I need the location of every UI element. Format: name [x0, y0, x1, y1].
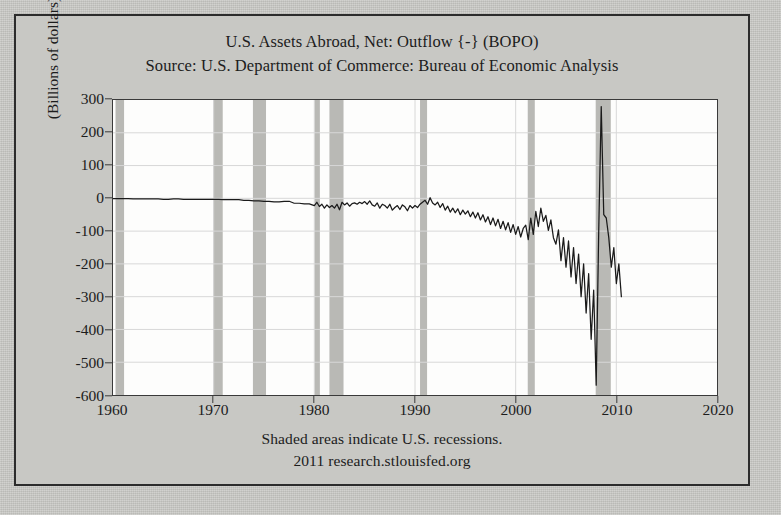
recession-band — [213, 100, 223, 395]
chart-subtitle: Source: U.S. Department of Commerce: Bur… — [16, 56, 748, 76]
recession-band — [116, 100, 125, 395]
y-tick-mark — [105, 164, 112, 165]
x-tick-label: 2010 — [602, 401, 633, 419]
x-tick-label: 1970 — [198, 401, 229, 419]
chart-title: U.S. Assets Abroad, Net: Outflow {-} (BO… — [16, 32, 748, 52]
recession-band — [420, 100, 427, 395]
y-tick-mark — [105, 131, 112, 132]
y-tick-mark — [105, 230, 112, 231]
y-tick-label: -400 — [76, 321, 104, 339]
x-tick-label: 2000 — [501, 401, 532, 419]
page-background: U.S. Assets Abroad, Net: Outflow {-} (BO… — [0, 0, 781, 515]
gridlines — [113, 100, 717, 395]
x-tick-mark — [515, 396, 516, 403]
x-tick-mark — [313, 396, 314, 403]
y-tick-mark — [105, 296, 112, 297]
y-tick-label: -500 — [76, 354, 104, 372]
plot-area-wrapper: 3002001000-100-200-300-400-500-600 19601… — [112, 99, 718, 396]
y-tick-label: -200 — [76, 255, 104, 273]
recession-caption: Shaded areas indicate U.S. recessions. — [16, 430, 748, 448]
chart-canvas — [113, 100, 717, 395]
y-tick-mark — [105, 263, 112, 264]
x-tick-mark — [414, 396, 415, 403]
data-series — [113, 107, 621, 386]
y-tick-label: -300 — [76, 288, 104, 306]
x-tick-label: 2020 — [703, 401, 734, 419]
x-tick-label: 1990 — [400, 401, 431, 419]
y-tick-label: 0 — [96, 189, 104, 207]
chart-figure: U.S. Assets Abroad, Net: Outflow {-} (BO… — [14, 14, 750, 486]
y-tick-mark — [105, 98, 112, 99]
source-caption: 2011 research.stlouisfed.org — [16, 452, 748, 470]
y-tick-label: 100 — [81, 156, 104, 174]
recession-band — [329, 100, 343, 395]
recession-bands — [116, 100, 611, 395]
plot-area — [112, 99, 718, 396]
x-tick-mark — [717, 396, 718, 403]
y-tick-mark — [105, 395, 112, 396]
x-tick-mark — [212, 396, 213, 403]
x-tick-label: 1980 — [299, 401, 330, 419]
y-tick-mark — [105, 329, 112, 330]
y-tick-mark — [105, 362, 112, 363]
recession-band — [253, 100, 266, 395]
recession-band — [528, 100, 535, 395]
series-line — [113, 107, 621, 386]
x-tick-label: 1960 — [97, 401, 128, 419]
y-tick-label: 300 — [81, 90, 104, 108]
y-tick-label: 200 — [81, 123, 104, 141]
recession-band — [314, 100, 320, 395]
y-tick-mark — [105, 197, 112, 198]
x-tick-mark — [616, 396, 617, 403]
y-tick-label: -100 — [76, 222, 104, 240]
y-axis-label: (Billions of dollars) — [44, 0, 62, 148]
